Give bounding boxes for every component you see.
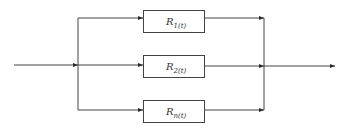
parallel-block-diagram: R1(t) R2(t) Rn(t) (0, 0, 347, 129)
block-rn-label: Rn(t) (165, 106, 187, 120)
block-r1-label: R1(t) (165, 16, 187, 30)
block-r2-label: R2(t) (165, 61, 187, 75)
